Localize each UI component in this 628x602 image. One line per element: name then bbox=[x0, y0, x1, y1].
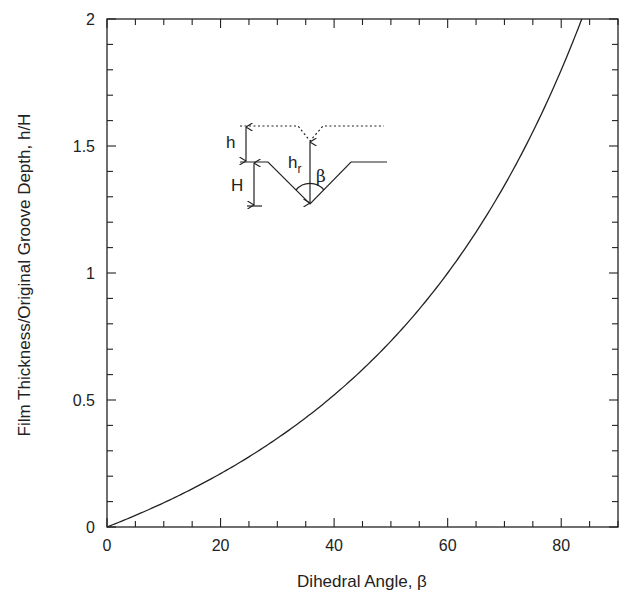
plot-border bbox=[107, 19, 618, 527]
y-tick-label: 1.5 bbox=[73, 138, 95, 155]
y-tick-label: 1 bbox=[86, 265, 95, 282]
hr-label-main: h bbox=[288, 153, 297, 172]
x-tick-label: 20 bbox=[212, 537, 230, 554]
groove-inset-diagram bbox=[240, 126, 387, 206]
data-curve bbox=[107, 19, 582, 527]
y-tick-label: 0.5 bbox=[73, 392, 95, 409]
x-tick-label: 60 bbox=[439, 537, 457, 554]
beta-label: β bbox=[316, 166, 326, 186]
x-tick-label: 80 bbox=[552, 537, 570, 554]
y-axis-title: Film Thickness/Original Groove Depth, h/… bbox=[15, 114, 34, 437]
plot-frame bbox=[107, 19, 618, 527]
y-tick-labels: 00.511.52 bbox=[73, 11, 95, 536]
axis-ticks bbox=[107, 19, 618, 527]
y-tick-label: 0 bbox=[86, 519, 95, 536]
x-tick-labels: 020406080 bbox=[103, 537, 571, 554]
h-label: h bbox=[226, 133, 235, 152]
hr-label: hr bbox=[288, 153, 301, 176]
y-tick-label: 2 bbox=[86, 11, 95, 28]
film-surface-dotted bbox=[240, 126, 384, 141]
x-tick-label: 0 bbox=[103, 537, 112, 554]
groove-profile bbox=[240, 162, 387, 204]
x-tick-label: 40 bbox=[325, 537, 343, 554]
x-axis-title: Dihedral Angle, β bbox=[297, 572, 427, 591]
H-label: H bbox=[231, 176, 243, 195]
hr-label-subscript: r bbox=[297, 162, 301, 176]
chart: 020406080 00.511.52 Dihedral Angle, β Fi… bbox=[0, 0, 628, 602]
